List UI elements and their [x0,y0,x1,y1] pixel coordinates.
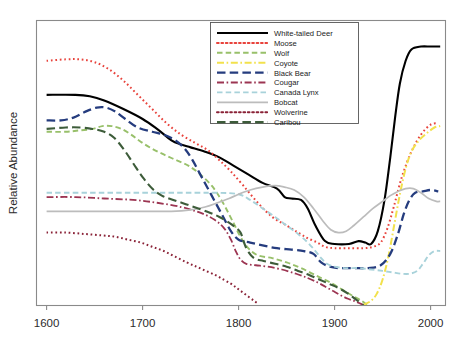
legend-label-wolf: Wolf [274,49,290,58]
legend-label-coyote: Coyote [274,59,298,68]
legend-label-caribou: Caribou [274,118,301,127]
abundance-chart-figure: 16001700180019002000 Relative Abundance … [0,0,463,341]
chart-canvas: 16001700180019002000 Relative Abundance … [0,0,463,341]
legend-label-black-bear: Black Bear [274,69,311,78]
series-line-coyote [363,126,440,305]
x-tick-label: 2000 [418,317,444,329]
series-line-bobcat [47,186,441,233]
legend-label-bobcat: Bobcat [274,98,299,107]
series-line-wolverine [47,232,258,303]
legend-label-moose: Moose [274,39,297,48]
legend-label-canada-lynx: Canada Lynx [274,88,319,97]
legend-label-wolverine: Wolverine [274,108,308,117]
y-axis-label: Relative Abundance [7,112,19,214]
x-tick-label: 1600 [34,317,60,329]
legend-label-white-tailed-deer: White-tailed Deer [274,29,333,38]
x-tick-label: 1900 [322,317,348,329]
legend: White-tailed DeerMooseWolfCoyoteBlack Be… [211,23,359,128]
x-tick-label: 1800 [226,317,252,329]
x-tick-label: 1700 [130,317,156,329]
series-line-caribou [47,127,364,305]
legend-label-cougar: Cougar [274,78,299,87]
x-axis-tick-labels: 16001700180019002000 [34,317,444,329]
